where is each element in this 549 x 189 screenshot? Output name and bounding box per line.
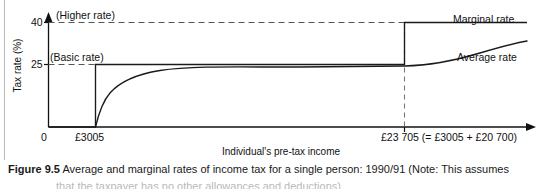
figure-caption: Figure 9.5 Average and marginal rates of… [8,163,546,176]
y-tick-label-40: 40 [31,17,43,28]
marginal-rate-label: Marginal rate [453,14,514,25]
higher-rate-annotation: (Higher rate) [56,10,115,21]
figure-caption-line2: that the taxpayer has no other allowance… [56,181,516,189]
figure-caption-body: Average and marginal rates of income tax… [62,163,509,175]
average-rate-label: Average rate [457,52,517,63]
figure-number: Figure 9.5 [8,163,60,175]
figure-container: Tax rate (%) 40 25 0 (Higher rate) (Basi… [0,0,549,189]
marginal-rate-line [49,23,528,128]
y-tick-label-0: 0 [41,132,47,143]
x-axis-title: Individual's pre-tax income [222,147,340,157]
x-tick-label-23705: £23 705 (= £3005 + £20 700) [381,132,517,143]
basic-rate-annotation: (Basic rate) [50,52,104,63]
y-tick-label-25: 25 [31,59,43,70]
y-tick-marks [44,23,49,65]
y-axis-title: Tax rate (%) [12,26,23,106]
x-axis [49,123,537,131]
y-axis [45,12,53,127]
plot-area: Tax rate (%) 40 25 0 (Higher rate) (Basi… [0,0,549,160]
x-tick-label-3005: £3005 [75,132,104,143]
